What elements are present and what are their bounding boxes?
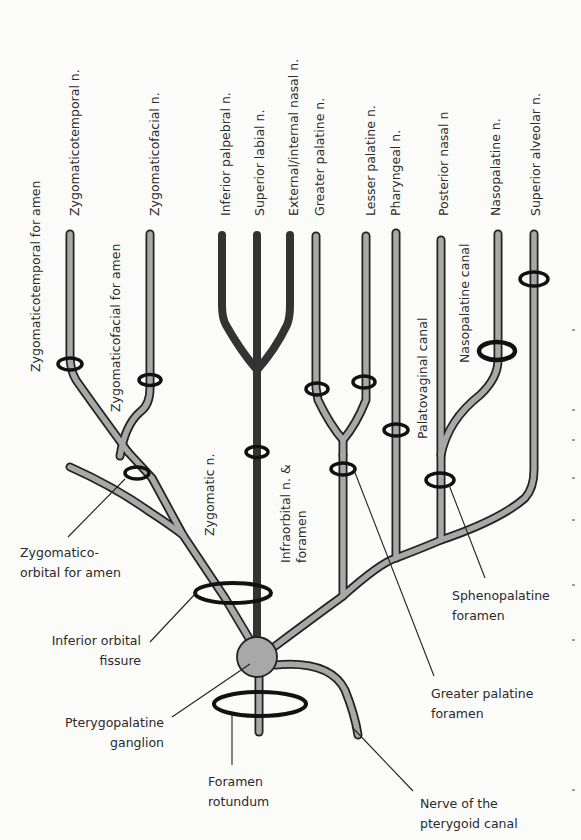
inferior-palpebral-nerve [222, 235, 257, 370]
label-superior-labial-n: Superior labial n. [252, 110, 267, 216]
callout-sphenopalatine-1: Sphenopalatine [452, 588, 550, 603]
callout-sphenopalatine-2: foramen [452, 608, 505, 623]
callout-zygomatico-orbital-1: Zygomatico- [20, 545, 99, 560]
label-infraorbital-line2: foramen [294, 510, 309, 563]
callout-foramen-rotundum-2: rotundum [208, 794, 269, 809]
zygomatic-nerve [128, 452, 250, 640]
label-greater-palatine-n: Greater palatine n. [312, 98, 327, 216]
label-nasopalatine-n: Nasopalatine n. [488, 118, 503, 216]
right-margin-marks [572, 330, 575, 790]
label-inferior-palpebral-n: Inferior palpebral n. [218, 92, 233, 216]
label-zygomaticofacial-foramen: Zygomaticofacial for amen [108, 244, 123, 412]
leader-pterygoid-canal [352, 727, 413, 791]
label-palatovaginal-canal: Palatovaginal canal [415, 318, 430, 439]
label-superior-alveolar-n: Superior alveolar n. [528, 93, 543, 216]
callout-pterygoid-canal-2: pterygoid canal [420, 816, 518, 831]
callout-pterygopalatine-1: Pterygopalatine [65, 715, 164, 730]
label-zygomaticofacial-n: Zygomaticofacial n. [147, 92, 162, 216]
callout-greater-palatine-foramen-1: Greater palatine [431, 686, 534, 701]
callout-inferior-orbital-1: Inferior orbital [52, 633, 141, 648]
callout-labels: Zygomatico- orbital for amen Inferior or… [20, 545, 550, 831]
vertical-labels: Zygomaticotemporal for amen Zygomaticofa… [28, 181, 472, 563]
label-pharyngeal-n: Pharyngeal n. [388, 130, 403, 216]
callout-inferior-orbital-2: fissure [100, 653, 142, 668]
callout-zygomatico-orbital-2: orbital for amen [20, 565, 121, 580]
callout-pterygoid-canal-1: Nerve of the [420, 796, 498, 811]
label-external-internal-nasal-n: External/internal nasal n. [286, 59, 301, 216]
label-zygomaticotemporal-n: Zygomaticotemporal n. [67, 69, 82, 216]
label-posterior-nasal-n: Posterior nasal n [436, 112, 451, 216]
label-zygomatic-n: Zygomatic n. [202, 454, 217, 537]
callout-greater-palatine-foramen-2: foramen [431, 706, 484, 721]
foramen-rings [58, 272, 548, 716]
label-nasopalatine-canal: Nasopalatine canal [457, 244, 472, 363]
leader-inferior-orbital-fissure [150, 593, 196, 642]
pterygopalatine-diagram: Zygomaticotemporal n. Zygomaticofacial n… [0, 0, 581, 840]
leader-pterygopalatine-ganglion [172, 664, 250, 717]
branch-labels: Zygomaticotemporal n. Zygomaticofacial n… [67, 59, 543, 216]
callout-foramen-rotundum-1: Foramen [208, 774, 263, 789]
label-lesser-palatine-n: Lesser palatine n. [363, 105, 378, 216]
external-internal-nasal-nerve [257, 235, 290, 370]
label-zygomaticotemporal-foramen: Zygomaticotemporal for amen [28, 181, 43, 372]
leader-zygomatico-orbital [68, 479, 125, 537]
pterygopalatine-ganglion [237, 637, 277, 677]
callout-pterygopalatine-2: ganglion [110, 735, 164, 750]
label-infraorbital-line1: Infraorbital n. & [278, 464, 293, 563]
